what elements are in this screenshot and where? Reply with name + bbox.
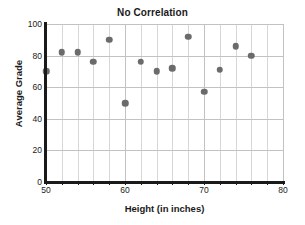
gridline-vertical xyxy=(141,24,142,182)
gridline-vertical xyxy=(62,24,63,182)
x-tick-label: 80 xyxy=(278,185,287,195)
gridline-vertical xyxy=(78,24,79,182)
x-tick-mark xyxy=(141,181,142,185)
scatter-plot-figure: No Correlation 020406080100 Height (in i… xyxy=(0,0,305,225)
x-tick-mark xyxy=(46,181,47,185)
y-axis-label: Average Grade xyxy=(13,34,24,154)
gridline-horizontal xyxy=(46,24,283,25)
data-point xyxy=(122,100,129,107)
gridline-vertical xyxy=(157,24,158,182)
x-tick-mark xyxy=(204,181,205,185)
x-tick-mark xyxy=(157,181,158,185)
data-point xyxy=(153,68,160,75)
gridline-vertical xyxy=(172,24,173,182)
data-point xyxy=(232,43,239,50)
data-point xyxy=(138,59,145,66)
data-point xyxy=(59,49,66,56)
x-tick-mark xyxy=(220,181,221,185)
x-tick-label: 50 xyxy=(41,185,50,195)
x-tick-mark xyxy=(188,181,189,185)
gridline-vertical xyxy=(109,24,110,182)
x-tick-mark xyxy=(172,181,173,185)
gridline-horizontal xyxy=(46,150,283,151)
gridline-vertical xyxy=(220,24,221,182)
data-point xyxy=(185,33,192,40)
gridline-vertical xyxy=(283,24,284,182)
gridline-vertical xyxy=(204,24,205,182)
data-point xyxy=(90,59,97,66)
x-tick-mark xyxy=(283,181,284,185)
x-tick-mark xyxy=(62,181,63,185)
data-point xyxy=(74,49,81,56)
y-tick-label: 0 xyxy=(16,177,42,187)
data-point xyxy=(106,37,113,44)
x-tick-label: 70 xyxy=(199,185,208,195)
x-tick-mark xyxy=(109,181,110,185)
gridline-vertical xyxy=(251,24,252,182)
x-axis-line xyxy=(44,181,285,184)
gridline-vertical xyxy=(188,24,189,182)
x-tick-mark xyxy=(251,181,252,185)
data-point xyxy=(169,65,176,72)
data-point xyxy=(248,52,255,59)
x-tick-mark xyxy=(93,181,94,185)
x-tick-mark xyxy=(236,181,237,185)
data-point xyxy=(217,67,224,74)
x-tick-label: 60 xyxy=(120,185,129,195)
y-tick-label: 100 xyxy=(16,19,42,29)
x-tick-mark xyxy=(125,181,126,185)
y-axis-line xyxy=(44,22,47,184)
chart-title: No Correlation xyxy=(0,7,305,18)
plot-area xyxy=(46,24,283,182)
gridline-horizontal xyxy=(46,87,283,88)
data-point xyxy=(201,89,208,96)
x-tick-mark xyxy=(267,181,268,185)
x-tick-mark xyxy=(78,181,79,185)
gridline-vertical xyxy=(267,24,268,182)
gridline-horizontal xyxy=(46,119,283,120)
gridline-vertical xyxy=(93,24,94,182)
x-axis-label: Height (in inches) xyxy=(46,203,283,214)
